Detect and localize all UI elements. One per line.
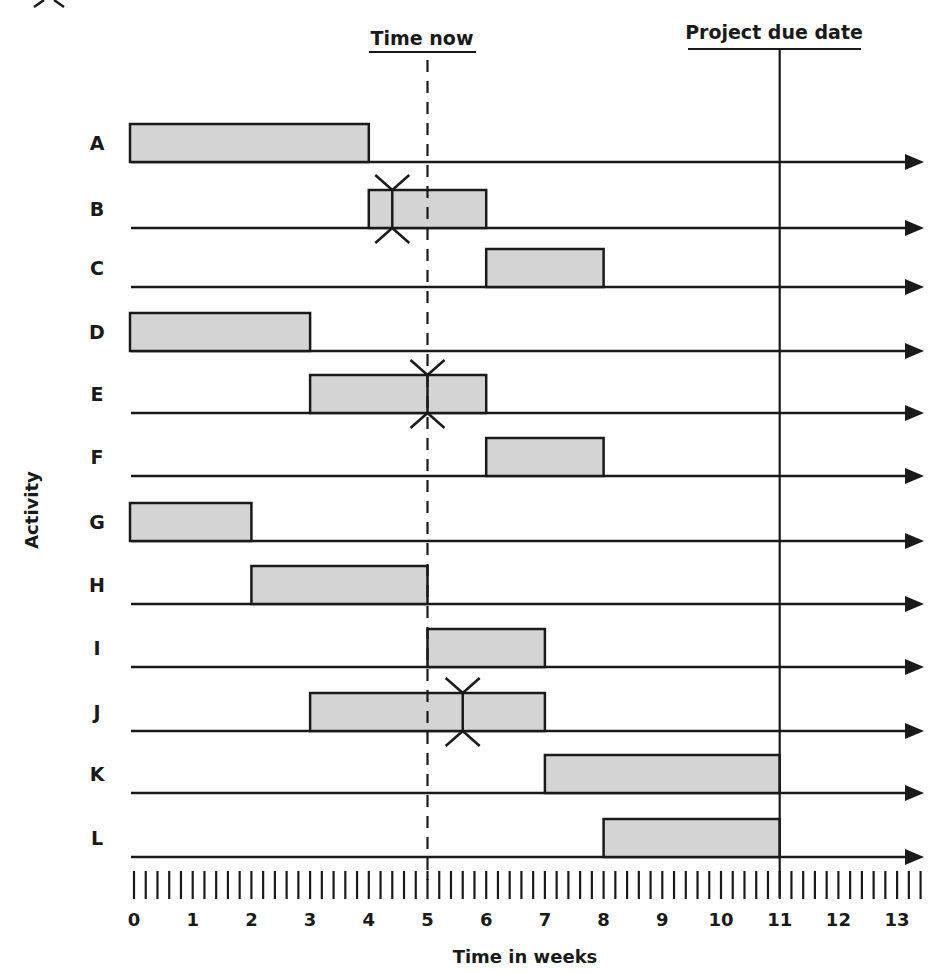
due-date-label: Project due date [685, 21, 863, 43]
x-tick-label: 8 [597, 909, 610, 930]
activity-row-i: I [93, 629, 924, 675]
activity-bar [486, 438, 603, 476]
activity-row-f: F [91, 438, 924, 484]
time-axis: 012345678910111213 [128, 871, 921, 930]
x-tick-label: 11 [767, 909, 792, 930]
activity-row-l: L [91, 819, 924, 865]
x-tick-label: 0 [128, 909, 141, 930]
x-tick-label: 1 [186, 909, 199, 930]
activity-label: C [90, 257, 104, 279]
arrowhead-icon [905, 723, 924, 739]
activity-bar [428, 629, 545, 667]
arrowhead-icon [905, 659, 924, 675]
activity-label: I [93, 637, 100, 659]
activity-label: B [90, 198, 104, 220]
x-tick-label: 13 [885, 909, 910, 930]
x-tick-label: 10 [708, 909, 733, 930]
arrowhead-icon [905, 405, 924, 421]
arrowhead-icon [905, 343, 924, 359]
activity-row-e: E [91, 360, 924, 428]
activity-row-b: B [90, 175, 924, 243]
activity-label: D [89, 321, 105, 343]
x-tick-label: 4 [363, 909, 376, 930]
activity-bar [130, 503, 251, 541]
activity-bar [604, 819, 780, 857]
x-tick-label: 9 [656, 909, 669, 930]
activity-label: J [91, 701, 100, 723]
activity-row-d: D [89, 313, 924, 359]
activity-row-a: A [90, 124, 924, 170]
arrowhead-icon [905, 279, 924, 295]
activity-label: L [91, 827, 103, 849]
activity-bar [130, 313, 310, 351]
x-tick-label: 6 [480, 909, 493, 930]
activity-row-c: C [90, 249, 924, 295]
arrowhead-icon [905, 220, 924, 236]
arrowhead-icon [905, 468, 924, 484]
arrowhead-icon [905, 596, 924, 612]
activity-row-g: G [89, 503, 924, 549]
activity-label: F [91, 446, 104, 468]
activity-bar [251, 566, 427, 604]
activity-bar [130, 124, 369, 162]
x-tick-label: 3 [304, 909, 317, 930]
activity-row-j: J [91, 678, 924, 746]
arrowhead-icon [905, 849, 924, 865]
activity-bar [486, 249, 603, 287]
activity-label: H [89, 574, 105, 596]
gantt-chart: ABCDEFGHIJKL 012345678910111213 Time now… [0, 0, 941, 974]
activity-row-k: K [90, 755, 924, 801]
x-tick-label: 2 [245, 909, 258, 930]
arrowhead-icon [905, 785, 924, 801]
activity-label: A [90, 132, 105, 154]
x-tick-label: 12 [826, 909, 851, 930]
activity-label: G [89, 511, 105, 533]
arrowhead-icon [905, 533, 924, 549]
x-tick-label: 5 [421, 909, 434, 930]
activity-rows: ABCDEFGHIJKL [89, 124, 924, 865]
arrowhead-icon [905, 154, 924, 170]
activity-bar [310, 375, 486, 413]
activity-label: E [91, 383, 104, 405]
activity-row-h: H [89, 566, 924, 612]
activity-bar [545, 755, 780, 793]
x-tick-label: 7 [539, 909, 552, 930]
time-now-label: Time now [371, 27, 474, 49]
x-axis-title: Time in weeks [453, 946, 598, 967]
activity-label: K [90, 763, 106, 785]
y-axis-title: Activity [21, 471, 42, 549]
corner-mark-icon [34, 0, 64, 7]
